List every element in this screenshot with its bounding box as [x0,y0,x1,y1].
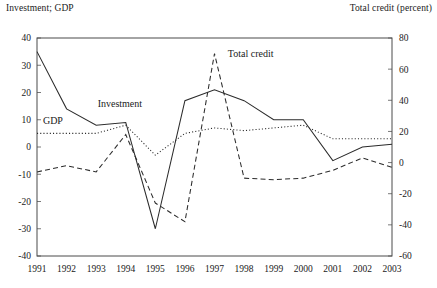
x-tick-label: 1997 [205,264,224,274]
left-tick-label: -20 [18,197,31,207]
left-tick-label: 40 [22,33,32,43]
left-tick-label: -30 [18,224,31,234]
x-tick-label: 1992 [57,264,76,274]
left-axis-title: Investment; GDP [6,3,74,13]
x-tick-label: 1996 [175,264,194,274]
x-tick-label: 2001 [323,264,342,274]
left-tick-label: -40 [18,251,31,261]
series-lines [37,52,392,229]
x-tick-label: 1995 [146,264,165,274]
series-line-gdp [37,125,392,155]
series-line-investment [37,52,392,229]
left-tick-label: 30 [22,61,32,71]
left-tick-label: -10 [18,170,31,180]
right-tick-label: 40 [399,96,409,106]
right-axis-labels: -60-40-20020406080 [399,33,412,261]
left-tick-label: 0 [26,142,31,152]
x-tick-label: 2000 [294,264,313,274]
x-tick-label: 1994 [116,264,135,274]
left-tick-label: 20 [22,88,32,98]
right-tick-label: 60 [399,65,409,75]
x-tick-label: 1998 [235,264,254,274]
right-tick-label: -40 [399,220,412,230]
series-label-total-credit: Total credit [228,48,274,59]
x-tick-label: 1991 [28,264,47,274]
right-tick-label: 20 [399,127,409,137]
series-line-total-credit [37,54,392,222]
right-axis-ticks [388,38,392,256]
chart-figure: Investment; GDP Total credit (percent) -… [0,0,437,288]
series-annotations: InvestmentGDPTotal credit [43,48,274,126]
left-axis-ticks [37,38,41,256]
x-tick-label: 2002 [353,264,372,274]
x-tick-label: 2003 [383,264,402,274]
right-tick-label: -60 [399,251,412,261]
right-tick-label: -20 [399,189,412,199]
plot-frame [37,38,392,256]
x-axis-labels: 1991199219931994199519961997199819992000… [28,264,402,274]
chart-plot-area: -40-30-20-10010203040 -60-40-20020406080… [0,0,437,288]
series-label-investment: Investment [98,98,143,109]
right-tick-label: 0 [399,158,404,168]
x-tick-label: 1999 [264,264,283,274]
right-axis-title: Total credit (percent) [350,3,432,13]
x-tick-label: 1993 [87,264,106,274]
left-tick-label: 10 [22,115,32,125]
series-label-gdp: GDP [43,115,63,126]
right-tick-label: 80 [399,33,409,43]
left-axis-labels: -40-30-20-10010203040 [18,33,31,261]
